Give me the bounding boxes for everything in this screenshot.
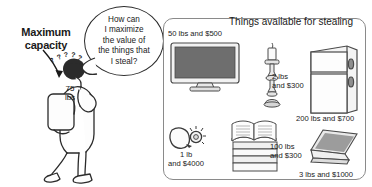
refrigerator-caption: 200 lbs and $700 bbox=[296, 115, 370, 124]
maximum-capacity-line1: Maximum bbox=[4, 26, 88, 39]
thought-line-3: the value of bbox=[98, 36, 149, 46]
backpack-capacity-line2: lbs bbox=[60, 93, 80, 102]
panel-heading: Things available for stealing bbox=[229, 16, 364, 28]
thought-line-1: How can bbox=[98, 15, 149, 25]
person-with-backpack-icon bbox=[24, 56, 120, 184]
ring-icon bbox=[166, 120, 212, 152]
thought-line-2: I maximize bbox=[98, 25, 149, 35]
thought-line-5: I steal? bbox=[98, 57, 149, 67]
thought-bubble-tail-icon bbox=[76, 56, 98, 80]
backpack-capacity-line1: 75 bbox=[60, 84, 80, 93]
thought-bubble-text: How can I maximize the value of the thin… bbox=[94, 15, 153, 67]
laptop-caption: 3 lbs and $1000 bbox=[299, 171, 369, 180]
illustration-canvas: Maximum capacity ? ? ? ? ? bbox=[0, 0, 372, 187]
backpack-capacity-label: 75 lbs bbox=[60, 84, 80, 102]
refrigerator-icon bbox=[307, 44, 361, 114]
tv-caption: 50 lbs and $500 bbox=[168, 30, 238, 39]
ring-caption: 1 lb and $4000 bbox=[165, 151, 207, 169]
thought-line-4: the things that bbox=[98, 46, 149, 56]
laptop-icon bbox=[305, 128, 363, 170]
tv-icon bbox=[170, 42, 244, 92]
ring-caption-line2: and $4000 bbox=[165, 160, 207, 169]
